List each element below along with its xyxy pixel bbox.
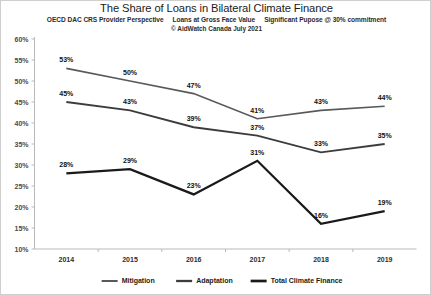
line-chart-svg: 10%15%20%25%30%35%40%45%50%55%60% 201420… bbox=[1, 1, 431, 295]
y-tick-label: 55% bbox=[14, 57, 29, 64]
data-point-label: 45% bbox=[59, 90, 74, 97]
data-point-label: 37% bbox=[250, 124, 265, 131]
y-tick-label: 60% bbox=[14, 36, 29, 43]
y-tick-label: 40% bbox=[14, 120, 29, 127]
x-tick-label: 2016 bbox=[186, 256, 202, 263]
x-tick-label: 2014 bbox=[59, 256, 75, 263]
y-tick-label: 45% bbox=[14, 99, 29, 106]
data-point-label: 19% bbox=[378, 199, 393, 206]
y-axis-ticks: 10%15%20%25%30%35%40%45%50%55%60% bbox=[14, 36, 34, 253]
series-line-total-climate-finance bbox=[66, 161, 384, 224]
data-point-label: 31% bbox=[250, 149, 265, 156]
data-point-label: 44% bbox=[378, 94, 393, 101]
series-group bbox=[66, 68, 384, 223]
data-point-label: 41% bbox=[250, 107, 265, 114]
legend-label-adaptation[interactable]: Adaptation bbox=[196, 277, 233, 285]
x-tick-label: 2015 bbox=[122, 256, 138, 263]
legend-label-mitigation[interactable]: Mitigation bbox=[122, 277, 155, 285]
x-tick-label: 2019 bbox=[377, 256, 393, 263]
legend-label-total-climate-finance[interactable]: Total Climate Finance bbox=[271, 277, 343, 284]
data-point-label: 50% bbox=[123, 69, 138, 76]
x-tick-label: 2018 bbox=[313, 256, 329, 263]
x-axis-ticks: 201420152016201720182019 bbox=[59, 249, 393, 263]
y-tick-label: 30% bbox=[14, 162, 29, 169]
data-point-label: 43% bbox=[123, 98, 138, 105]
chart-legend: MitigationAdaptationTotal Climate Financ… bbox=[102, 277, 343, 285]
data-point-label: 28% bbox=[59, 161, 74, 168]
data-point-label: 16% bbox=[314, 212, 329, 219]
data-point-label: 47% bbox=[187, 82, 202, 89]
y-tick-label: 50% bbox=[14, 78, 29, 85]
y-tick-label: 20% bbox=[14, 204, 29, 211]
data-point-label: 35% bbox=[378, 132, 393, 139]
data-labels-group: 53%50%47%41%43%44%45%43%39%37%33%35%28%2… bbox=[59, 56, 392, 218]
data-point-label: 39% bbox=[187, 115, 202, 122]
y-tick-label: 10% bbox=[14, 246, 29, 253]
y-tick-label: 25% bbox=[14, 183, 29, 190]
data-point-label: 29% bbox=[123, 157, 138, 164]
y-tick-label: 15% bbox=[14, 225, 29, 232]
data-point-label: 33% bbox=[314, 140, 329, 147]
x-tick-label: 2017 bbox=[250, 256, 266, 263]
data-point-label: 53% bbox=[59, 56, 74, 63]
chart-container: The Share of Loans in Bilateral Climate … bbox=[0, 0, 431, 295]
data-point-label: 43% bbox=[314, 98, 329, 105]
series-line-mitigation bbox=[66, 68, 384, 118]
y-tick-label: 35% bbox=[14, 141, 29, 148]
plot-area: 10%15%20%25%30%35%40%45%50%55%60% 201420… bbox=[1, 1, 431, 295]
data-point-label: 23% bbox=[187, 182, 202, 189]
